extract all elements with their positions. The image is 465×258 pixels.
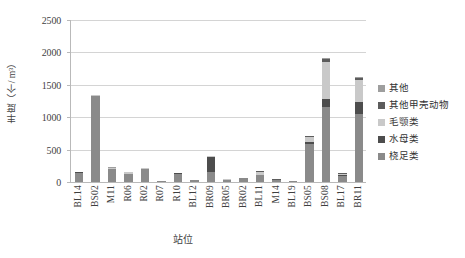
bar-segment[interactable] — [91, 96, 100, 182]
bar-segment[interactable] — [305, 144, 314, 182]
x-axis-tick-label: BS05 — [303, 185, 313, 207]
x-axis-tick-label: BR05 — [221, 185, 231, 208]
y-axis-tick-label: 0 — [56, 177, 61, 188]
x-axis-tick-label: R06 — [123, 185, 133, 201]
bar-segment[interactable] — [338, 176, 347, 182]
bar-segment[interactable] — [190, 180, 199, 182]
y-axis-title: 丰度（个/ m³） — [2, 0, 24, 182]
x-axis-tick-label: R07 — [155, 185, 165, 201]
x-axis-tick-label: M11 — [106, 185, 116, 203]
bar-column[interactable] — [91, 95, 100, 182]
bar-column[interactable] — [157, 181, 166, 182]
legend-swatch-icon — [378, 119, 385, 126]
bar-column[interactable] — [289, 181, 298, 182]
y-axis-tick-label: 2500 — [42, 15, 61, 26]
bar-segment[interactable] — [207, 157, 216, 173]
y-axis-tick-label: 1500 — [42, 79, 61, 90]
legend-swatch-icon — [378, 85, 385, 92]
y-axis-tick-label: 1000 — [42, 112, 61, 123]
x-axis-tick-labels: BL14BS02M11R06R02R07R10BL12BR09BR05BR02B… — [70, 183, 366, 229]
bar-segment[interactable] — [174, 174, 183, 182]
bar-column[interactable] — [338, 173, 347, 182]
bar-segment[interactable] — [75, 173, 84, 182]
bar-segment[interactable] — [322, 107, 331, 182]
bars-layer — [71, 20, 366, 182]
bar-segment[interactable] — [207, 172, 216, 182]
bar-column[interactable] — [256, 171, 265, 182]
bar-segment[interactable] — [355, 102, 364, 114]
bar-column[interactable] — [190, 180, 199, 182]
chart-legend: 其他其他甲壳动物毛颚类水母类桡足类 — [378, 80, 464, 165]
bar-segment[interactable] — [124, 174, 133, 182]
bar-column[interactable] — [124, 172, 133, 182]
bar-segment[interactable] — [272, 180, 281, 182]
bar-column[interactable] — [141, 168, 150, 182]
bar-segment[interactable] — [141, 169, 150, 182]
legend-label: 毛颚类 — [389, 118, 419, 128]
x-axis-tick-label: BR02 — [238, 185, 248, 208]
bar-segment[interactable] — [355, 80, 364, 101]
legend-label: 其他甲壳动物 — [389, 101, 449, 111]
y-axis-tick-labels: 05001000150020002500 — [24, 0, 66, 190]
bar-column[interactable] — [174, 173, 183, 182]
plot-area — [70, 20, 366, 182]
x-axis-tick-label: BL19 — [287, 185, 297, 207]
x-axis-tick-label: BL11 — [254, 185, 264, 207]
chart-container: 丰度（个/ m³） 05001000150020002500 BL14BS02M… — [0, 0, 465, 258]
x-axis-tick-label: R02 — [139, 185, 149, 201]
bar-segment[interactable] — [108, 169, 117, 182]
bar-segment[interactable] — [322, 62, 331, 100]
bar-column[interactable] — [355, 77, 364, 182]
x-axis-tick-label: BS02 — [90, 185, 100, 207]
legend-swatch-icon — [378, 102, 385, 109]
x-axis-tick-label: M14 — [271, 185, 281, 204]
x-axis-tick-label: BR09 — [205, 185, 215, 208]
x-axis-tick-label: BL17 — [336, 185, 346, 207]
x-axis-tick-label: BL12 — [188, 185, 198, 207]
bar-segment[interactable] — [223, 180, 232, 182]
bar-column[interactable] — [207, 156, 216, 182]
y-axis-tick-label: 2000 — [42, 47, 61, 58]
bar-column[interactable] — [272, 179, 281, 182]
bar-column[interactable] — [239, 178, 248, 182]
legend-swatch-icon — [378, 153, 385, 160]
bar-segment[interactable] — [289, 181, 298, 182]
bar-column[interactable] — [322, 58, 331, 182]
legend-label: 其他 — [389, 84, 409, 94]
bar-column[interactable] — [223, 179, 232, 182]
bar-segment[interactable] — [322, 99, 331, 107]
legend-item[interactable]: 桡足类 — [378, 148, 464, 165]
legend-label: 水母类 — [389, 135, 419, 145]
legend-item[interactable]: 其他甲壳动物 — [378, 97, 464, 114]
legend-swatch-icon — [378, 136, 385, 143]
legend-item[interactable]: 其他 — [378, 80, 464, 97]
bar-segment[interactable] — [157, 181, 166, 182]
bar-column[interactable] — [108, 167, 117, 182]
bar-segment[interactable] — [355, 114, 364, 182]
legend-label: 桡足类 — [389, 152, 419, 162]
x-axis-tick-label: BR11 — [353, 185, 363, 208]
x-axis-tick-label: BS08 — [320, 185, 330, 207]
bar-segment[interactable] — [256, 175, 265, 182]
legend-item[interactable]: 水母类 — [378, 131, 464, 148]
bar-column[interactable] — [305, 136, 314, 182]
x-axis-tick-label: BL14 — [73, 185, 83, 207]
bar-segment[interactable] — [239, 178, 248, 182]
y-axis-title-text: 丰度（个/ m³） — [8, 58, 18, 123]
x-axis-tick-label: R10 — [172, 185, 182, 201]
bar-column[interactable] — [75, 172, 84, 182]
legend-item[interactable]: 毛颚类 — [378, 114, 464, 131]
x-axis-title: 站位 — [0, 231, 366, 246]
y-axis-tick-label: 500 — [47, 144, 61, 155]
